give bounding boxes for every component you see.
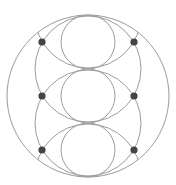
intersection-dot xyxy=(130,38,137,45)
inner-circle xyxy=(61,15,115,69)
intersection-dot xyxy=(130,92,137,99)
geometric-circle-diagram xyxy=(0,0,176,185)
intersection-dot xyxy=(38,92,45,99)
outer-circle xyxy=(7,15,169,177)
intersecting-arcs xyxy=(35,0,141,185)
intersection-dot xyxy=(130,146,137,153)
intersection-dot xyxy=(38,146,45,153)
inner-circle xyxy=(61,123,115,177)
inner-circle xyxy=(61,69,115,123)
inner-circles xyxy=(61,15,115,177)
intersection-dot xyxy=(38,38,45,45)
arc-circle xyxy=(35,0,141,68)
